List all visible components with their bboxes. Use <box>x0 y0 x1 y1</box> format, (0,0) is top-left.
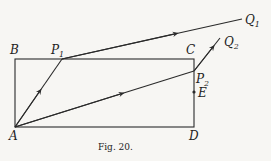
point-e-dot <box>192 90 195 93</box>
label-q2: Q2 <box>224 35 239 51</box>
label-a: A <box>8 129 18 143</box>
arrow-a-p1 <box>15 91 40 127</box>
figure-caption: Fig. 20. <box>98 142 133 152</box>
label-d: D <box>188 129 199 143</box>
figure-diagram: B P1 C Q1 Q2 P2 E A D Fig. 20. <box>0 0 271 161</box>
arrow-p1-q1 <box>62 34 176 59</box>
rectangle-abcd <box>15 59 194 127</box>
label-b: B <box>9 43 19 57</box>
label-e: E <box>197 86 207 100</box>
arrow-p2-q2 <box>194 47 213 71</box>
arrow-a-p2 <box>15 94 122 128</box>
label-q1: Q1 <box>245 13 260 29</box>
label-p1: P1 <box>50 43 64 59</box>
label-c: C <box>186 43 195 57</box>
